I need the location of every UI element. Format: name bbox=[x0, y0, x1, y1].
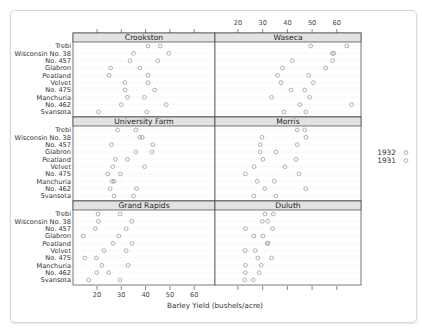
variety-label: Svansota bbox=[41, 108, 71, 116]
panel-crookston: Crookston bbox=[73, 33, 215, 117]
panel-university-farm: University Farm bbox=[73, 117, 215, 201]
top-tick-label: 50 bbox=[308, 19, 316, 27]
bottom-tick-label: 50 bbox=[166, 291, 174, 299]
bottom-tick-label: 20 bbox=[93, 291, 101, 299]
top-tick-label: 20 bbox=[234, 19, 242, 27]
bottom-tick-label: 30 bbox=[117, 291, 125, 299]
strip-label: Crookston bbox=[125, 33, 164, 42]
top-tick-label: 30 bbox=[259, 19, 267, 27]
legend-marker-1931 bbox=[404, 159, 408, 163]
barley-dot-plot: CrookstonWasecaUniversity FarmMorrisGran… bbox=[0, 0, 422, 332]
bottom-tick-label: 40 bbox=[141, 291, 149, 299]
strip-label: Duluth bbox=[275, 201, 301, 210]
legend: 1932 1931 bbox=[377, 148, 408, 165]
panel-waseca: Waseca bbox=[215, 33, 361, 117]
legend-label-1931: 1931 bbox=[377, 156, 396, 165]
variety-label: Svansota bbox=[41, 276, 71, 284]
panel-grand-rapids: Grand Rapids bbox=[73, 201, 215, 285]
variety-labels: TrebiWisconsin No. 38No. 457GlabronPeatl… bbox=[15, 42, 72, 284]
top-tick-label: 60 bbox=[333, 19, 341, 27]
strip-label: Morris bbox=[276, 117, 299, 126]
top-tick-label: 40 bbox=[283, 19, 291, 27]
strip-label: Waseca bbox=[273, 33, 302, 42]
strip-label: Grand Rapids bbox=[118, 201, 169, 210]
panels-group: CrookstonWasecaUniversity FarmMorrisGran… bbox=[73, 33, 361, 285]
bottom-tick-label: 60 bbox=[190, 291, 198, 299]
strip-label: University Farm bbox=[114, 117, 173, 126]
panel-morris: Morris bbox=[215, 117, 361, 201]
x-axis-title: Barley Yield (bushels/acre) bbox=[167, 301, 263, 310]
variety-label: Svansota bbox=[41, 192, 71, 200]
panel-duluth: Duluth bbox=[215, 201, 361, 285]
legend-marker-1932 bbox=[404, 151, 408, 155]
